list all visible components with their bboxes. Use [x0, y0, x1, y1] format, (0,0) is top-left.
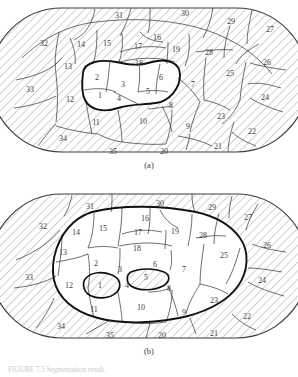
region-label: 16: [153, 33, 161, 42]
region-label: 24: [261, 93, 269, 102]
region-label: 12: [66, 95, 74, 104]
panel-b-label: (b): [0, 346, 298, 356]
region-label: 17: [134, 42, 142, 51]
region-label: 23: [217, 112, 225, 121]
region-label: 11: [90, 305, 98, 314]
region-label: 9: [186, 122, 190, 131]
region-label: 6: [159, 73, 163, 82]
region-label: 21: [214, 142, 222, 151]
region-label: 2: [94, 259, 98, 268]
panel-b: 31 30 29 27 32 16 14 15 17 19 28 26 13 1…: [0, 186, 298, 356]
region-label: 27: [244, 213, 252, 222]
region-label: 25: [220, 251, 228, 260]
panel-a-label: (a): [0, 160, 298, 170]
region-label: 3: [118, 265, 122, 274]
region-label: 32: [40, 39, 48, 48]
region-label: 20: [160, 147, 168, 156]
region-label: 33: [26, 85, 34, 94]
region-label: 5: [146, 87, 150, 96]
region-label: 21: [210, 329, 218, 338]
region-label: 22: [248, 127, 256, 136]
region-label: 17: [134, 228, 142, 237]
region-label: 4: [117, 94, 121, 103]
region-label: 10: [139, 117, 147, 126]
region-label: 7: [191, 80, 195, 89]
region-label: 30: [181, 9, 189, 18]
region-label: 32: [39, 222, 47, 231]
region-label: 19: [172, 45, 180, 54]
panel-a: 31 30 29 27 32 14 15 17 16 19 28 26 13 1…: [0, 0, 298, 172]
region-label: 29: [208, 203, 216, 212]
region-label: 18: [133, 244, 141, 253]
region-label: 26: [263, 241, 271, 250]
region-label: 25: [226, 69, 234, 78]
region-label: 34: [57, 322, 65, 331]
region-label: 3: [121, 80, 125, 89]
region-label: 6: [153, 260, 157, 269]
region-label: 13: [59, 248, 67, 257]
region-label: 19: [171, 227, 179, 236]
region-label: 1: [98, 91, 102, 100]
region-label: 30: [156, 199, 164, 208]
region-label: 23: [210, 296, 218, 305]
region-label: 11: [92, 118, 100, 127]
region-label: 2: [95, 73, 99, 82]
region-label: 22: [243, 312, 251, 321]
region-label: 24: [258, 276, 266, 285]
region-label: 29: [227, 17, 235, 26]
region-label: 28: [199, 231, 207, 240]
region-label: 31: [115, 11, 123, 20]
region-label: 8: [167, 284, 171, 293]
region-label: 5: [144, 273, 148, 282]
region-label: 8: [169, 101, 173, 110]
region-label: 31: [86, 202, 94, 211]
region-label: 18: [135, 59, 143, 68]
region-label: 35: [109, 147, 117, 156]
region-label: 26: [263, 58, 271, 67]
region-label: 16: [141, 214, 149, 223]
figure-caption: FIGURE 7.5 Segmentation result.: [8, 366, 292, 377]
region-label: 9: [182, 308, 186, 317]
region-label: 13: [64, 62, 72, 71]
region-label: 35: [106, 331, 114, 340]
region-label: 20: [158, 331, 166, 340]
region-label: 15: [103, 39, 111, 48]
region-label: 1: [98, 281, 102, 290]
region-label: 4: [125, 281, 129, 290]
region-label: 7: [182, 265, 186, 274]
region-label: 15: [99, 224, 107, 233]
region-label: 12: [65, 281, 73, 290]
figure-container: 31 30 29 27 32 14 15 17 16 19 28 26 13 1…: [0, 0, 298, 377]
region-label: 34: [59, 134, 67, 143]
region-label: 28: [205, 48, 213, 57]
region-label: 27: [266, 25, 274, 34]
region-label: 14: [72, 228, 80, 237]
region-label: 14: [77, 40, 85, 49]
region-label: 33: [25, 273, 33, 282]
region-label: 10: [137, 303, 145, 312]
